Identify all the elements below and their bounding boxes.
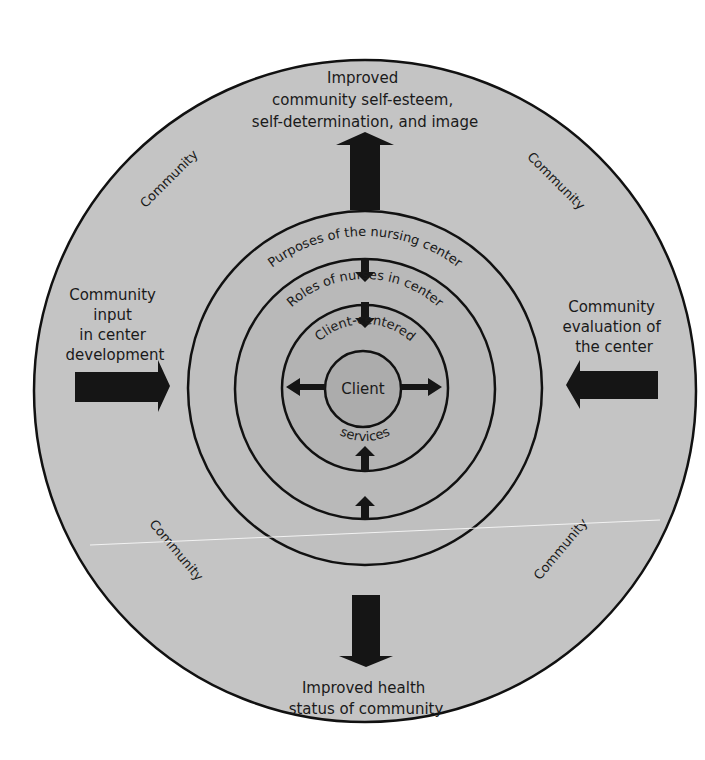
- community-evaluation-label: Community evaluation of the center: [563, 298, 666, 356]
- nursing-center-diagram: Improved community self-esteem, self-det…: [0, 0, 705, 760]
- client-label: Client: [341, 380, 385, 398]
